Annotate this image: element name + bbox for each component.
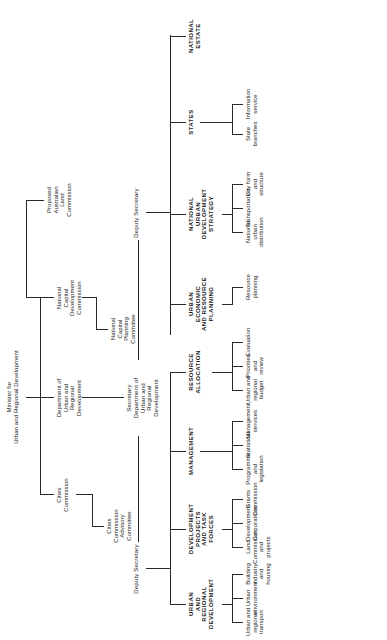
- division-development-projects-and-task-forces: DEVELOPMENT PROJECTS AND TASK FORCES: [188, 500, 215, 558]
- connector-div3-child0: [232, 390, 243, 391]
- node-cities-commission-advisory-committee: Cities Commission Advisory Committee: [106, 491, 133, 561]
- division-child-item: Resource planning: [245, 256, 258, 318]
- connector-div1-drop: [170, 529, 186, 530]
- connector-div6-child1: [232, 104, 243, 105]
- connector-div6-drop: [170, 122, 186, 123]
- connector-div2-child0: [232, 469, 243, 470]
- connector-div3-child2: [232, 342, 243, 343]
- connector-div6-childbus: [232, 104, 233, 135]
- connector-div2-drop: [170, 451, 186, 452]
- connector-div5-drop: [170, 214, 186, 215]
- connector-palc-top-tie: [26, 297, 40, 298]
- division-child-item: Evaluation: [245, 311, 252, 373]
- connector-div3-childbus-tie: [212, 372, 232, 373]
- node-national-capital-development-commission: National Capital Development Commission: [56, 260, 83, 336]
- connector-deputy-left-drop: [146, 568, 170, 569]
- connector-div3-drop: [170, 372, 186, 373]
- node-minister: Minister for Urban and Regional Developm…: [6, 337, 20, 457]
- connector-cities-commission-drop: [40, 494, 54, 495]
- connector-palc-bus: [26, 200, 27, 298]
- connector-ncdc-drop: [40, 297, 54, 298]
- division-resource-allocation: RESOURCE ALLOCATION: [188, 343, 201, 401]
- connector-div4-childbus-tie: [222, 304, 232, 305]
- connector-palc-drop: [26, 200, 44, 201]
- connector-div0-child2: [232, 574, 243, 575]
- connector-div5-childbus-tie: [222, 214, 232, 215]
- connector-secretary-spine: [138, 436, 139, 542]
- connector-div0-child1: [232, 598, 243, 599]
- connector-div4-drop: [170, 304, 186, 305]
- connector-ncpc-drop: [82, 297, 96, 298]
- connector-div0-childbus: [232, 575, 233, 623]
- connector-cities-advisory-drop: [76, 494, 92, 495]
- node-department: Department of Urban and Regional Develop…: [56, 360, 83, 436]
- node-deputy-secretary-left: Deputy Secretary: [133, 541, 140, 597]
- connector-div4-child0: [232, 287, 243, 288]
- connector-department-drop: [40, 397, 54, 398]
- division-urban-and-regional-development: URBAN AND REGIONAL DEVELOPMENT: [188, 575, 215, 633]
- connector-div2-child2: [232, 421, 243, 422]
- node-deputy-secretary-right: Deputy Secretary: [133, 185, 140, 241]
- connector-div3-child1: [232, 366, 243, 367]
- connector-div5-child0: [232, 232, 243, 233]
- connector-div6-child0: [232, 134, 243, 135]
- connector-div0-childbus-tie: [222, 604, 232, 605]
- division-management: MANAGEMENT: [188, 422, 195, 480]
- connector-cities-advisory-stem: [92, 526, 104, 527]
- node-national-capital-planning-committee: National Capital Planning Committee: [110, 294, 137, 364]
- division-national-urban-development-strategy: NATIONAL URBAN DEVELOPMENT STRATEGY: [188, 183, 215, 245]
- connector-div5-childbus: [232, 185, 233, 233]
- division-national-estate: NATIONAL ESTATE: [188, 7, 201, 65]
- connector-div2-childbus-tie: [200, 451, 232, 452]
- connector-div5-child2: [232, 184, 243, 185]
- node-proposed-australian-land-commission: Proposed Australian Land Commission: [46, 163, 73, 237]
- connector-minister-drop: [26, 397, 40, 398]
- connector-div1-childbus: [232, 500, 233, 548]
- connector-div0-drop: [170, 604, 186, 605]
- connector-cities-advisory-bus: [92, 494, 93, 527]
- node-secretary: Secretary Department of Urban and Region…: [126, 360, 160, 436]
- connector-department-to-secretary: [82, 397, 124, 398]
- connector-division-bus-left: [170, 373, 171, 605]
- connector-div1-child0: [232, 547, 243, 548]
- connector-div1-child2: [232, 499, 243, 500]
- connector-div2-childbus: [232, 422, 233, 470]
- connector-div4-childbus: [232, 287, 233, 305]
- connector-div3-childbus: [232, 343, 233, 391]
- connector-div1-child1: [232, 523, 243, 524]
- connector-div7-drop: [170, 36, 186, 37]
- connector-ncpc-bus: [96, 297, 97, 330]
- connector-div1-childbus-tie: [222, 529, 232, 530]
- connector-div2-child1: [232, 445, 243, 446]
- division-states: STATES: [188, 93, 195, 151]
- division-child-item: Information service: [245, 73, 258, 135]
- connector-div0-child0: [232, 622, 243, 623]
- connector-div6-childbus-tie: [200, 122, 232, 123]
- connector-secretary-spine-right: [138, 240, 139, 360]
- connector-div5-child1: [232, 208, 243, 209]
- connector-deputy-right-drop: [146, 212, 170, 213]
- connector-ncpc-stem: [96, 329, 108, 330]
- connector-division-bus-right: [170, 35, 171, 335]
- division-urban-economic-and-resource-planning: URBAN ECONOMIC AND RESOURCE PLANNING: [188, 273, 215, 335]
- node-cities-commission: Cities Commission: [56, 459, 69, 531]
